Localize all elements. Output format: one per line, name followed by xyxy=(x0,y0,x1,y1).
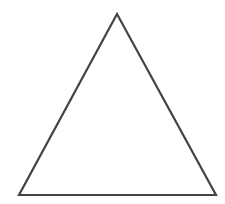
diagram-canvas xyxy=(0,0,225,204)
triangle-shape xyxy=(19,14,216,195)
